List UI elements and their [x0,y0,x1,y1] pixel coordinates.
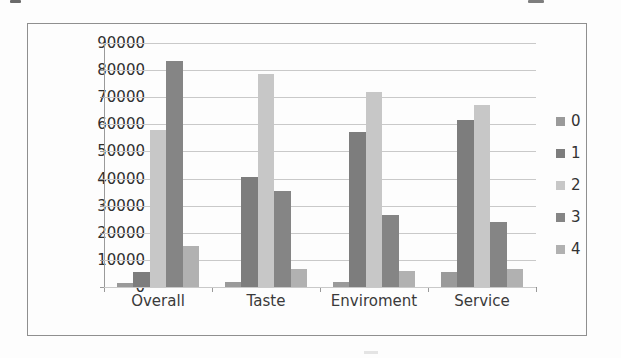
legend-item-0: 0 [556,112,590,130]
x-category-label: Enviroment [320,292,428,310]
bar-taste-series-1 [241,177,258,287]
x-category-label: Service [428,292,536,310]
legend-swatch [556,181,565,190]
bar-enviroment-series-1 [349,132,366,287]
y-tick-mark [100,70,104,71]
bar-taste-series-2 [258,74,275,287]
bar-enviroment-series-4 [399,271,416,287]
x-category-label: Taste [212,292,320,310]
bar-taste-series-0 [225,282,242,287]
y-tick-mark [100,260,104,261]
legend-label: 2 [571,176,581,194]
bar-overall-series-0 [117,283,134,287]
bar-enviroment-series-0 [333,282,350,287]
scan-artifact-top-right [528,0,544,3]
y-tick-mark [100,97,104,98]
bar-overall-series-3 [166,61,183,287]
gridline [104,43,536,44]
y-tick-mark [100,43,104,44]
bar-service-series-4 [507,269,524,287]
legend-swatch [556,245,565,254]
y-tick-mark [100,124,104,125]
scan-artifact-bottom [364,351,378,354]
legend-swatch [556,213,565,222]
scanned-chart-page: 9000080000700006000050000400003000020000… [0,0,621,358]
legend-label: 0 [571,112,581,130]
bar-taste-series-3 [274,191,291,287]
legend-item-1: 1 [556,144,590,162]
y-tick-mark [100,179,104,180]
y-tick-mark [100,206,104,207]
x-category-label: Overall [104,292,212,310]
bar-enviroment-series-3 [382,215,399,287]
legend-item-3: 3 [556,208,590,226]
bar-overall-series-1 [133,272,150,287]
bar-service-series-1 [457,120,474,287]
bar-overall-series-2 [150,130,167,287]
legend: 01234 [556,112,590,258]
legend-label: 3 [571,208,581,226]
x-tick-mark [536,288,537,292]
legend-swatch [556,149,565,158]
bar-overall-series-4 [183,246,200,287]
scan-artifact-top-left [10,0,21,3]
bar-service-series-0 [441,272,458,287]
legend-label: 1 [571,144,581,162]
legend-item-4: 4 [556,240,590,258]
legend-swatch [556,117,565,126]
chart-frame: 9000080000700006000050000400003000020000… [27,23,587,336]
bar-service-series-3 [490,222,507,287]
legend-label: 4 [571,240,581,258]
bar-enviroment-series-2 [366,92,383,287]
legend-item-2: 2 [556,176,590,194]
y-tick-mark [100,151,104,152]
bar-taste-series-4 [291,269,308,287]
bar-service-series-2 [474,105,491,287]
y-tick-mark [100,233,104,234]
y-axis-line [104,43,105,287]
plot-area [104,43,536,287]
